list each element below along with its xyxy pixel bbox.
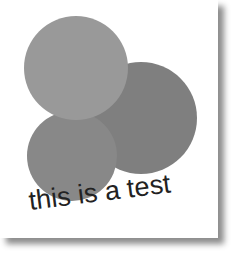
drawing-canvas: this is a test [0,0,237,255]
circle-top [24,16,128,120]
